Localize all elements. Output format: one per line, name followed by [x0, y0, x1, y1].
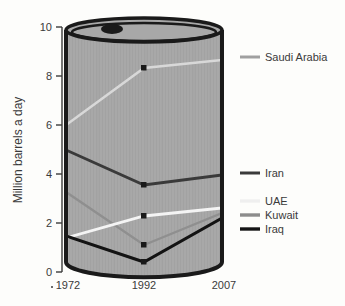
x-tick-label-1972: 1972 — [56, 279, 80, 291]
y-tick-label-6: 6 — [46, 119, 52, 131]
y-tick-label-10: 10 — [40, 21, 52, 33]
legend: Saudi Arabia Iran UAE Kuwait Iraq — [240, 51, 328, 235]
legend-label-uae: UAE — [265, 195, 288, 207]
y-tick-label-0: 0 — [46, 266, 52, 278]
barrel-bung-hole-icon — [101, 24, 123, 34]
x-tick-label-2007: 2007 — [212, 279, 236, 291]
x-axis: 1972 1992 2007 — [51, 279, 236, 291]
y-axis: 10 8 6 4 2 0 Million barrels a day — [11, 21, 62, 278]
marker-saudi-arabia-1992 — [141, 65, 147, 71]
oil-production-chart: 10 8 6 4 2 0 Million barrels a day 1972 … — [0, 0, 345, 306]
marker-uae-1992 — [141, 213, 147, 219]
legend-label-saudi-arabia: Saudi Arabia — [265, 51, 328, 63]
y-tick-label-8: 8 — [46, 70, 52, 82]
x-tick-label-1992: 1992 — [132, 279, 156, 291]
marker-iraq-1992 — [141, 259, 147, 265]
y-axis-title: Million barrels a day — [11, 97, 25, 204]
legend-label-iraq: Iraq — [265, 223, 284, 235]
marker-kuwait-1992 — [141, 242, 147, 248]
chart-svg: 10 8 6 4 2 0 Million barrels a day 1972 … — [0, 0, 345, 306]
y-tick-label-2: 2 — [46, 217, 52, 229]
y-tick-label-4: 4 — [46, 168, 52, 180]
legend-label-kuwait: Kuwait — [265, 209, 298, 221]
legend-label-iran: Iran — [265, 167, 284, 179]
x-axis-dot-marker — [51, 286, 53, 288]
marker-iran-1992 — [141, 182, 147, 188]
